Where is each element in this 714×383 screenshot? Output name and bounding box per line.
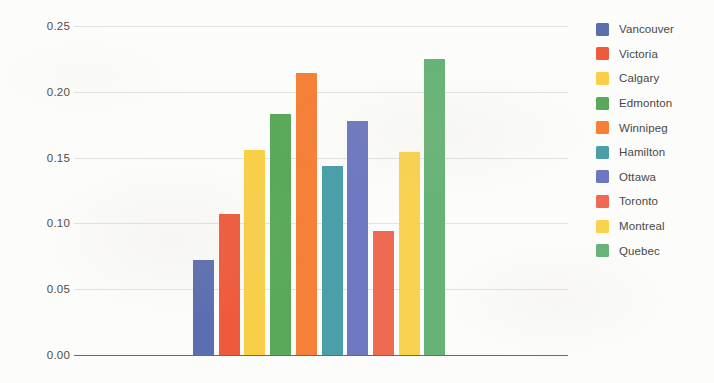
bar-quebec <box>424 59 445 355</box>
legend-item-ottawa[interactable]: Ottawa <box>596 165 714 190</box>
legend-label: Winnipeg <box>619 122 668 134</box>
legend-label: Toronto <box>619 195 658 207</box>
legend-label: Ottawa <box>619 171 656 183</box>
y-axis-tick-label: 0.00 <box>0 349 70 361</box>
y-axis-tick-label: 0.10 <box>0 217 70 229</box>
legend-item-edmonton[interactable]: Edmonton <box>596 91 714 116</box>
legend: VancouverVictoriaCalgaryEdmontonWinnipeg… <box>596 17 714 263</box>
legend-item-calgary[interactable]: Calgary <box>596 66 714 91</box>
y-axis-tick-label: 0.25 <box>0 20 70 32</box>
legend-label: Hamilton <box>619 146 665 158</box>
legend-item-victoria[interactable]: Victoria <box>596 42 714 67</box>
legend-item-montreal[interactable]: Montreal <box>596 214 714 239</box>
bar-vancouver <box>193 260 214 355</box>
legend-label: Vancouver <box>619 23 674 35</box>
bar-montreal <box>399 152 420 355</box>
legend-label: Calgary <box>619 72 659 84</box>
bar-calgary <box>244 150 265 355</box>
legend-item-quebec[interactable]: Quebec <box>596 238 714 263</box>
legend-swatch-icon <box>596 244 609 257</box>
legend-item-hamilton[interactable]: Hamilton <box>596 140 714 165</box>
bar-victoria <box>219 214 240 355</box>
legend-swatch-icon <box>596 170 609 183</box>
legend-swatch-icon <box>596 121 609 134</box>
legend-label: Victoria <box>619 48 658 60</box>
bar-ottawa <box>347 121 368 355</box>
legend-swatch-icon <box>596 97 609 110</box>
bar-hamilton <box>322 166 343 356</box>
x-axis-line <box>74 355 568 356</box>
legend-label: Quebec <box>619 245 660 257</box>
bar-edmonton <box>270 114 291 355</box>
legend-swatch-icon <box>596 195 609 208</box>
legend-swatch-icon <box>596 146 609 159</box>
bar-winnipeg <box>296 73 317 355</box>
bar-toronto <box>373 231 394 355</box>
legend-item-toronto[interactable]: Toronto <box>596 189 714 214</box>
bar-chart: 0.250.200.150.100.050.00 VancouverVictor… <box>0 0 714 383</box>
legend-item-vancouver[interactable]: Vancouver <box>596 17 714 42</box>
legend-swatch-icon <box>596 220 609 233</box>
legend-label: Edmonton <box>619 97 672 109</box>
legend-swatch-icon <box>596 47 609 60</box>
y-axis-tick-label: 0.05 <box>0 283 70 295</box>
legend-item-winnipeg[interactable]: Winnipeg <box>596 115 714 140</box>
y-axis-tick-label: 0.15 <box>0 152 70 164</box>
bars-layer <box>74 26 568 355</box>
legend-label: Montreal <box>619 220 665 232</box>
legend-swatch-icon <box>596 72 609 85</box>
legend-swatch-icon <box>596 23 609 36</box>
y-axis-tick-label: 0.20 <box>0 86 70 98</box>
